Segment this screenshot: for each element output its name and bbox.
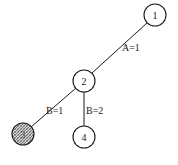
node-label: 3	[21, 129, 26, 140]
node-label: 4	[82, 132, 87, 143]
edge-label-a1: A=1	[122, 42, 140, 53]
edge-label-b1: B=1	[46, 105, 63, 116]
node-3-shaded: 3	[12, 123, 34, 145]
node-label: 1	[153, 10, 158, 21]
node-label: 2	[82, 76, 87, 87]
node-2: 2	[73, 70, 95, 92]
node-4: 4	[73, 126, 95, 148]
edge-label-b2: B=2	[86, 105, 103, 116]
tree-diagram: A=1 B=1 B=2 1 2 3 4	[0, 0, 178, 165]
node-1: 1	[144, 4, 166, 26]
